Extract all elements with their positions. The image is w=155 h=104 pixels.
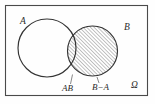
venn-diagram-figure: A B AB B−A Ω xyxy=(0,0,155,104)
sample-space-label: Ω xyxy=(131,80,138,90)
intersection-label: AB xyxy=(61,83,73,93)
venn-diagram-canvas: A B AB B−A Ω xyxy=(0,0,155,104)
set-b-hatch-fill xyxy=(64,22,122,80)
difference-label: B−A xyxy=(92,82,110,92)
set-a-label: A xyxy=(19,16,26,26)
set-b-label: B xyxy=(124,22,130,32)
